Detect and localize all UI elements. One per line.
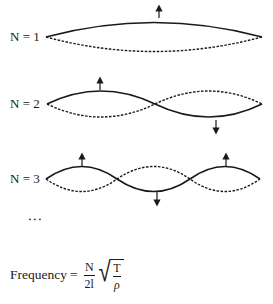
mode-n1-dashed-curve xyxy=(46,37,262,52)
mode-n1-wave xyxy=(46,8,262,52)
mode-n2-wave xyxy=(47,80,262,131)
radicand-fraction: T ρ xyxy=(112,262,121,291)
mode-label-n2: N = 2 xyxy=(10,97,40,110)
mode-n3-solid-curve xyxy=(46,167,260,192)
radicand-denominator: ρ xyxy=(113,276,121,291)
fraction-denominator: 2l xyxy=(84,275,95,290)
fraction-numerator: N xyxy=(84,261,95,275)
formula-lhs: Frequency xyxy=(10,267,67,283)
radicand-numerator: T xyxy=(112,262,121,276)
mode-n2-solid-curve xyxy=(47,91,262,117)
formula-fraction: N 2l xyxy=(84,261,95,290)
mode-n3-dashed-curve xyxy=(46,167,260,192)
mode-n1-solid-curve xyxy=(46,23,262,38)
frequency-formula: Frequency = N 2l √ T ρ xyxy=(10,255,124,295)
mode-label-n3: N = 3 xyxy=(10,172,40,185)
formula-square-root: √ T ρ xyxy=(97,259,124,291)
mode-n3-wave xyxy=(46,156,260,203)
mode-label-n1: N = 1 xyxy=(10,30,40,43)
continuation-ellipsis: · · · xyxy=(27,217,42,223)
radicand: T ρ xyxy=(110,259,123,291)
formula-equals: = xyxy=(70,267,78,283)
radical-sign-icon: √ xyxy=(98,259,110,291)
